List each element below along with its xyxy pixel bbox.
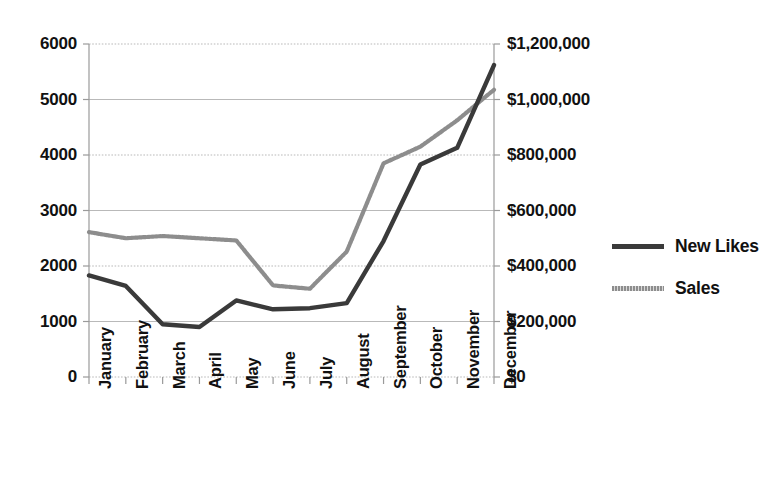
y-axis-left-tick-label: 0 — [68, 367, 77, 387]
series-line-sales — [89, 90, 494, 289]
y-axis-left-tick-label: 6000 — [40, 34, 77, 54]
legend-line-icon-sales — [612, 286, 664, 291]
legend-item-sales[interactable]: Sales — [612, 267, 777, 309]
y-axis-right-tick-label: $600,000 — [507, 201, 576, 221]
x-axis-tick-label-september: September — [391, 306, 410, 389]
x-axis-tick-label-august: August — [354, 333, 373, 389]
x-axis-tick-label-december: December — [501, 311, 520, 389]
legend-line-icon-new-likes — [612, 244, 664, 249]
y-axis-left-tick-label: 1000 — [40, 312, 77, 332]
legend-label-new-likes: New Likes — [675, 236, 759, 257]
y-axis-right-tick-label: $400,000 — [507, 256, 576, 276]
x-axis-tick-label-november: November — [464, 310, 483, 389]
x-axis-tick-label-july: July — [317, 357, 336, 389]
y-axis-left-tick-label: 3000 — [40, 201, 77, 221]
x-axis-tick-label-october: October — [427, 327, 446, 389]
y-axis-right-tick-label: $800,000 — [507, 145, 576, 165]
legend-item-new-likes[interactable]: New Likes — [612, 225, 777, 267]
y-axis-left-tick-label: 5000 — [40, 90, 77, 110]
x-axis-tick-label-february: February — [133, 320, 152, 389]
x-axis-tick-label-march: March — [170, 341, 189, 389]
chart-legend: New Likes Sales — [612, 225, 777, 309]
y-axis-right-tick-label: $1,200,000 — [507, 34, 590, 54]
y-axis-right-tick-label: $1,000,000 — [507, 90, 590, 110]
y-axis-left-tick-label: 4000 — [40, 145, 77, 165]
x-axis-tick-label-april: April — [206, 352, 225, 389]
line-chart: 0100020003000400050006000 $0$200,000$400… — [0, 0, 781, 499]
x-axis-tick-label-may: May — [243, 358, 262, 390]
y-axis-left-tick-label: 2000 — [40, 256, 77, 276]
x-axis-tick-label-january: January — [96, 327, 115, 389]
x-axis-tick-label-june: June — [280, 351, 299, 389]
legend-label-sales: Sales — [675, 278, 720, 299]
